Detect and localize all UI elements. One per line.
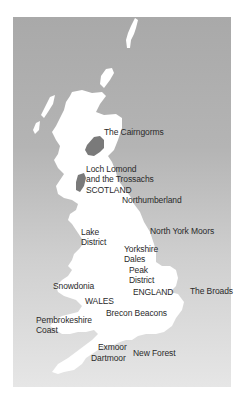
label-cairngorms: The Cairngorms <box>104 127 164 137</box>
label-yorkshire-dales: Yorkshire Dales <box>124 244 158 264</box>
label-loch-lomond: Loch Lomond and the Trossachs <box>86 164 154 184</box>
label-exmoor: Exmoor <box>98 342 127 352</box>
label-north-york-moors: North York Moors <box>150 226 214 236</box>
label-england: ENGLAND <box>133 287 173 297</box>
label-lake-district: Lake District <box>81 227 106 247</box>
shetland-islands <box>126 18 138 48</box>
label-new-forest: New Forest <box>133 348 175 358</box>
uk-map <box>0 0 242 400</box>
orkney-islands <box>100 68 114 88</box>
label-peak-district: Peak District <box>129 265 154 285</box>
label-scotland: SCOTLAND <box>86 185 132 195</box>
outer-hebrides <box>41 95 55 118</box>
label-dartmoor: Dartmoor <box>91 353 126 363</box>
hebrides-small <box>33 121 40 134</box>
label-wales: WALES <box>85 296 114 306</box>
label-brecon-beacons: Brecon Beacons <box>106 308 167 318</box>
label-the-broads: The Broads <box>190 286 233 296</box>
label-snowdonia: Snowdonia <box>53 281 94 291</box>
label-pembrokeshire-coast: Pembrokeshire Coast <box>36 315 92 335</box>
label-northumberland: Northumberland <box>122 195 182 205</box>
